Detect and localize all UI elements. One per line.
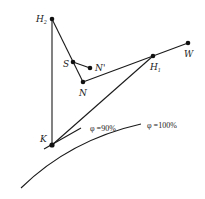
phi-100-curve — [21, 124, 141, 188]
point-n — [81, 80, 86, 85]
label-k: K — [39, 134, 48, 144]
point-h2 — [50, 17, 55, 22]
point-k — [49, 142, 54, 147]
point-s — [71, 60, 76, 65]
point-h1 — [151, 54, 156, 59]
label-nprime: N' — [94, 63, 105, 73]
label-phi-90: φ =90% — [90, 124, 116, 133]
label-w: W — [184, 49, 194, 59]
label-s: S — [63, 59, 69, 69]
label-h2: H2 — [35, 14, 47, 25]
point-nprime — [88, 66, 93, 71]
label-n: N — [78, 88, 88, 98]
point-w — [186, 41, 191, 46]
label-phi-100: φ =100% — [147, 121, 177, 130]
line-n-h1 — [83, 56, 153, 82]
line-h2-n — [52, 19, 83, 82]
psychrometric-diagram: H2 S N' N H1 W K φ =90% φ =100% — [0, 0, 205, 199]
label-h1: H1 — [149, 62, 161, 73]
line-h1-w — [153, 43, 188, 56]
